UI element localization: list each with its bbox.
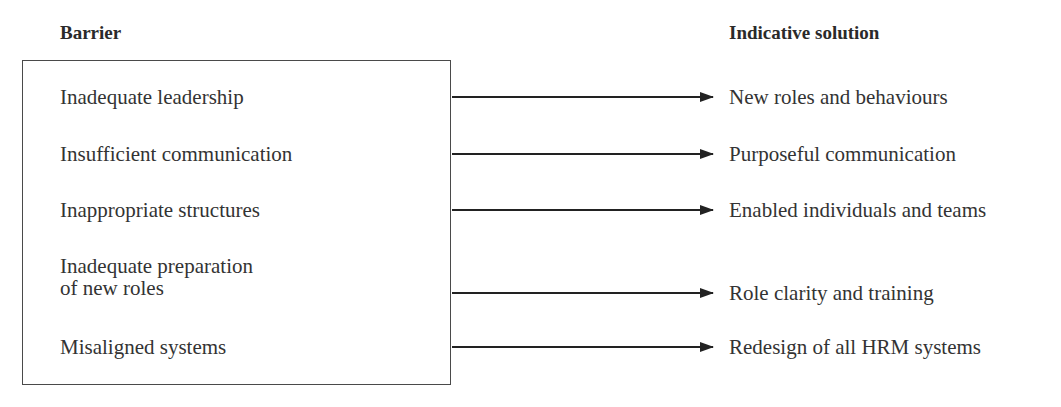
- solution-item-roles: New roles and behaviours: [729, 85, 948, 110]
- solution-item-hrm: Redesign of all HRM systems: [729, 335, 981, 360]
- solution-item-teams: Enabled individuals and teams: [729, 198, 986, 223]
- solution-item-communication: Purposeful communication: [729, 142, 956, 167]
- solution-item-training: Role clarity and training: [729, 281, 934, 306]
